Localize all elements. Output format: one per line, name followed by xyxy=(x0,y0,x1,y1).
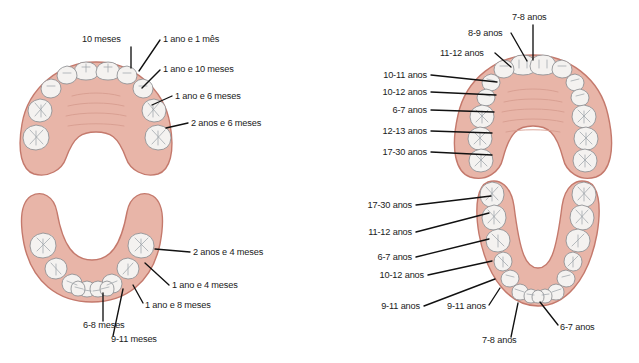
eruption-age-label: 11-12 anos xyxy=(440,48,484,58)
eruption-age-label: 10-12 anos xyxy=(380,270,425,280)
eruption-age-label: 7-8 anos xyxy=(512,12,547,22)
eruption-age-label: 17-30 anos xyxy=(368,200,413,210)
eruption-age-label: 2 anos e 6 meses xyxy=(191,118,262,128)
eruption-age-label: 9-11 anos xyxy=(447,301,486,311)
eruption-age-label: 7-8 anos xyxy=(482,335,517,345)
eruption-age-label: 8-9 anos xyxy=(468,28,503,38)
figure-background xyxy=(0,0,639,363)
eruption-age-label: 1 ano e 8 meses xyxy=(145,300,211,310)
dental-eruption-chart: 10 meses1 ano e 1 mês1 ano e 10 meses1 a… xyxy=(0,0,639,363)
eruption-age-label: 10-11 anos xyxy=(383,70,427,80)
eruption-age-label: 6-7 anos xyxy=(392,105,427,115)
eruption-age-label: 1 ano e 6 meses xyxy=(175,91,241,101)
eruption-age-label: 1 ano e 4 meses xyxy=(172,280,238,290)
eruption-age-label: 1 ano e 10 meses xyxy=(163,64,234,74)
eruption-age-label: 12-13 anos xyxy=(383,126,428,136)
eruption-age-label: 6-7 anos xyxy=(377,252,412,262)
eruption-age-label: 6-8 meses xyxy=(83,320,125,330)
eruption-age-label: 17-30 anos xyxy=(383,147,428,157)
eruption-age-label: 1 ano e 1 mês xyxy=(163,34,220,44)
eruption-age-label: 11-12 anos xyxy=(368,227,412,237)
eruption-age-label: 9-11 meses xyxy=(111,334,157,344)
eruption-age-label: 10 meses xyxy=(82,34,121,44)
eruption-age-label: 9-11 anos xyxy=(381,301,420,311)
eruption-age-label: 6-7 anos xyxy=(560,322,595,332)
eruption-age-label: 2 anos e 4 meses xyxy=(193,247,264,257)
eruption-age-label: 10-12 anos xyxy=(383,87,428,97)
